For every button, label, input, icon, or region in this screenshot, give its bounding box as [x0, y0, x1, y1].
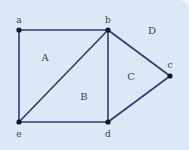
region-label-b: B — [80, 91, 87, 102]
region-label-c: C — [127, 71, 135, 82]
vertex-label-d: d — [105, 129, 111, 139]
diagram-panel: a b c d e A B C D — [0, 0, 189, 150]
vertex-label-a: a — [16, 15, 22, 25]
region-label-d: D — [148, 25, 156, 36]
vertex-c — [167, 73, 172, 78]
edge-c-d — [108, 76, 170, 122]
vertex-a — [16, 27, 21, 32]
edge-b-e — [19, 30, 108, 122]
region-labels: A B C D — [40, 25, 156, 102]
vertex-label-b: b — [105, 15, 111, 25]
vertices — [16, 27, 172, 124]
vertex-d — [105, 119, 110, 124]
vertex-label-e: e — [16, 129, 21, 139]
edges — [19, 30, 170, 122]
vertex-e — [16, 119, 21, 124]
graph-canvas: a b c d e A B C D — [0, 0, 189, 150]
region-label-a: A — [40, 52, 49, 63]
vertex-label-c: c — [167, 60, 172, 70]
edge-b-c — [108, 30, 170, 76]
vertex-b — [105, 27, 110, 32]
